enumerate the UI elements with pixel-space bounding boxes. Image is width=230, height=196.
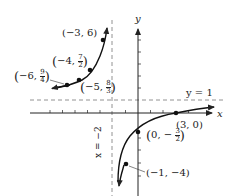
v-asymptote-label: x = −2 xyxy=(94,126,103,158)
point-label-m5-8-3: (−5, 83) xyxy=(80,80,116,95)
point-label-m1-m4: (−1, −4) xyxy=(146,168,190,178)
point-label-m6-9-4: (−6, 94) xyxy=(14,69,50,84)
graph-canvas xyxy=(0,0,230,196)
curve-right-tail xyxy=(119,165,124,186)
point-label-0-m3-2: (0, − 32) xyxy=(146,128,185,143)
point-label-m3-6: (−3, 6) xyxy=(62,28,97,38)
h-asymptote-label: y = 1 xyxy=(186,88,213,98)
x-axis-label: x xyxy=(217,109,223,119)
point-label-m4-7-2: (−4, 72) xyxy=(52,54,88,69)
y-axis-label: y xyxy=(135,14,141,24)
